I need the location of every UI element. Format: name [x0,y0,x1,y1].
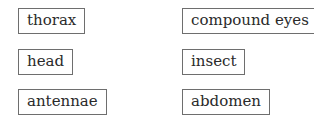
word-tile-insect[interactable]: insect [182,49,245,75]
word-tile-compound-eyes[interactable]: compound eyes [182,8,314,34]
word-tile-head[interactable]: head [18,49,73,75]
word-tile-thorax[interactable]: thorax [18,8,85,34]
word-tile-antennae[interactable]: antennae [18,89,107,115]
word-tile-abdomen[interactable]: abdomen [182,89,270,115]
